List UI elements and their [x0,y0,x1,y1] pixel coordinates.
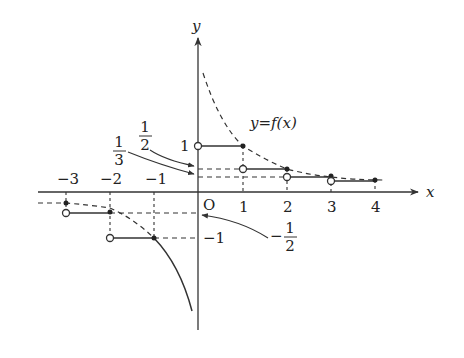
svg-text:1: 1 [140,118,150,136]
tick-x-neg2: −2 [100,170,122,188]
reference-curve-negative-dashed [38,203,154,238]
origin-label: O [203,196,215,214]
svg-text:2: 2 [140,136,150,154]
tick-x-1: 1 [239,198,249,216]
svg-text:3: 3 [114,151,124,169]
reference-curve-negative-solid [154,238,192,311]
curve-label: y=f(x) [249,114,297,132]
x-axis-label: x [426,183,435,201]
function-graph: x y O −3 −2 −1 1 2 3 4 1 −1 [0,0,464,358]
axes: x y O [38,17,435,330]
tick-x-2: 2 [283,198,293,216]
tick-x-neg1: −1 [145,170,167,188]
tick-y-neg1: −1 [203,229,225,247]
svg-text:1: 1 [285,219,295,237]
svg-text:1: 1 [114,133,124,151]
tick-x-3: 3 [327,198,337,216]
tick-x-4: 4 [371,198,381,216]
tick-y-1: 1 [180,137,190,155]
tick-x-neg3: −3 [57,170,79,188]
svg-text:2: 2 [285,237,295,255]
svg-text:−: − [270,227,283,245]
y-axis-label: y [191,17,201,35]
